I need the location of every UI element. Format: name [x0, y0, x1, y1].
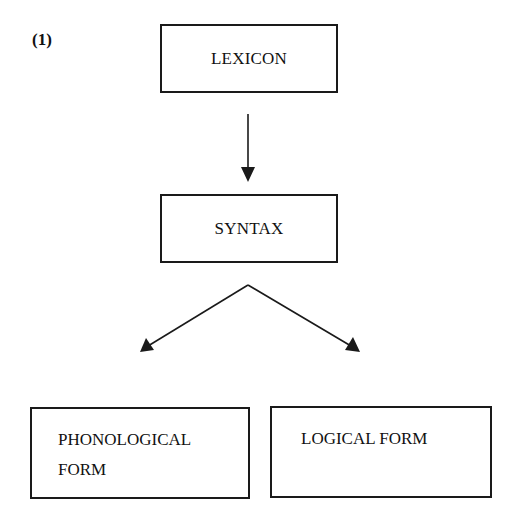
logical-form-label: LOGICAL FORM [301, 424, 490, 454]
arrowhead-down-right-icon [345, 337, 360, 352]
lexicon-box: LEXICON [160, 24, 338, 93]
phonological-form-label-line2: FORM [58, 455, 248, 485]
syntax-box: SYNTAX [160, 194, 338, 263]
arrow-syntax-to-logical [248, 285, 360, 352]
arrowhead-down-icon [241, 167, 255, 182]
logical-form-box: LOGICAL FORM [270, 406, 492, 498]
figure-number: (1) [32, 30, 52, 50]
syntax-label: SYNTAX [215, 214, 284, 244]
lexicon-label: LEXICON [211, 44, 287, 74]
arrow-lexicon-to-syntax [241, 114, 255, 182]
arrowhead-down-left-icon [140, 338, 154, 352]
arrow-syntax-to-phonological [140, 285, 248, 352]
phonological-form-box: PHONOLOGICAL FORM [30, 407, 250, 499]
phonological-form-label-line1: PHONOLOGICAL [58, 425, 248, 455]
